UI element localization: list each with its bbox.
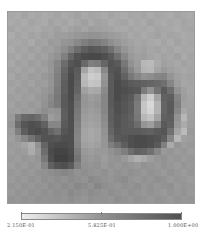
heatmap-cell: [114, 39, 121, 46]
heatmap-cell: [54, 148, 61, 155]
heatmap-cell: [121, 128, 128, 135]
heatmap-cell: [74, 73, 81, 80]
heatmap-cell: [161, 108, 168, 115]
heatmap-cell: [167, 53, 174, 60]
heatmap-cell: [28, 73, 35, 80]
heatmap-cell: [134, 128, 141, 135]
heatmap-cell: [54, 60, 61, 67]
heatmap-cell: [174, 108, 181, 115]
heatmap-cell: [121, 73, 128, 80]
heatmap-cell: [21, 148, 28, 155]
heatmap-cell: [147, 114, 154, 121]
heatmap-cell: [134, 73, 141, 80]
heatmap-cell: [161, 176, 168, 183]
heatmap-cell: [114, 46, 121, 53]
heatmap-cell: [174, 128, 181, 135]
heatmap-cell: [174, 114, 181, 121]
heatmap-cell: [141, 12, 148, 19]
heatmap-cell: [108, 135, 115, 142]
heatmap-cell: [121, 19, 128, 26]
heatmap-cell: [114, 169, 121, 176]
heatmap-cell: [61, 94, 68, 101]
heatmap-cell: [128, 80, 135, 87]
heatmap-cell: [187, 155, 194, 162]
heatmap-cell: [48, 46, 55, 53]
heatmap-cell: [141, 135, 148, 142]
heatmap-cell: [21, 19, 28, 26]
heatmap-cell: [108, 108, 115, 115]
heatmap-cell: [68, 39, 75, 46]
heatmap-cell: [154, 94, 161, 101]
colorbar-label-max: 1.000E+00: [168, 222, 198, 228]
heatmap-cell: [41, 121, 48, 128]
heatmap-cell: [114, 80, 121, 87]
heatmap-cell: [181, 12, 188, 19]
heatmap-cell: [54, 183, 61, 190]
heatmap-cell: [181, 73, 188, 80]
heatmap-cell: [15, 87, 22, 94]
heatmap-cell: [181, 183, 188, 190]
heatmap-cell: [167, 12, 174, 19]
heatmap-cell: [187, 169, 194, 176]
heatmap-cell: [61, 39, 68, 46]
heatmap-cell: [128, 12, 135, 19]
heatmap-cell: [101, 12, 108, 19]
heatmap-cell: [101, 80, 108, 87]
heatmap-cell: [161, 67, 168, 74]
heatmap-cell: [128, 73, 135, 80]
heatmap-cell: [94, 19, 101, 26]
heatmap-cell: [28, 39, 35, 46]
heatmap-cell: [88, 67, 95, 74]
heatmap-cell: [28, 155, 35, 162]
heatmap-cell: [147, 155, 154, 162]
heatmap-cell: [94, 32, 101, 39]
heatmap-cell: [74, 67, 81, 74]
heatmap-cell: [41, 67, 48, 74]
heatmap-cell: [68, 189, 75, 196]
heatmap-cell: [101, 32, 108, 39]
heatmap-cell: [174, 183, 181, 190]
heatmap-cell: [187, 39, 194, 46]
colorbar-label-min: 2.150E-01: [7, 222, 35, 228]
heatmap-cell: [134, 142, 141, 149]
heatmap-cell: [147, 142, 154, 149]
heatmap-cell: [174, 12, 181, 19]
heatmap-cell: [48, 148, 55, 155]
heatmap-cell: [74, 26, 81, 33]
heatmap-cell: [8, 26, 15, 33]
heatmap-cell: [167, 162, 174, 169]
heatmap-cell: [61, 189, 68, 196]
heatmap-cell: [174, 196, 181, 203]
heatmap-cell: [8, 148, 15, 155]
heatmap-cell: [121, 162, 128, 169]
heatmap-cell: [21, 67, 28, 74]
heatmap-cell: [54, 101, 61, 108]
heatmap-cell: [74, 101, 81, 108]
heatmap-cell: [61, 32, 68, 39]
heatmap-cell: [187, 87, 194, 94]
heatmap-cell: [28, 114, 35, 121]
heatmap-cell: [15, 128, 22, 135]
heatmap-cell: [8, 189, 15, 196]
heatmap-cell: [94, 94, 101, 101]
heatmap-cell: [88, 155, 95, 162]
heatmap-cell: [167, 32, 174, 39]
heatmap-cell: [28, 183, 35, 190]
heatmap-cell: [167, 108, 174, 115]
heatmap-cell: [35, 189, 42, 196]
heatmap-cell: [81, 60, 88, 67]
heatmap-cell: [8, 80, 15, 87]
heatmap-cell: [167, 155, 174, 162]
heatmap-cell: [8, 32, 15, 39]
heatmap-cell: [121, 176, 128, 183]
heatmap-cell: [21, 155, 28, 162]
heatmap-cell: [81, 114, 88, 121]
heatmap-cell: [74, 148, 81, 155]
heatmap-cell: [15, 26, 22, 33]
heatmap-cell: [41, 60, 48, 67]
heatmap-cell: [61, 46, 68, 53]
heatmap-cell: [8, 94, 15, 101]
heatmap-cell: [108, 80, 115, 87]
heatmap-cell: [147, 189, 154, 196]
heatmap-cell: [81, 148, 88, 155]
